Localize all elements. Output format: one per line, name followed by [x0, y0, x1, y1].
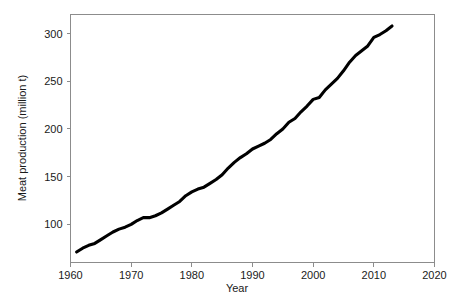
meat-production-line-chart: 1960197019801990200020102020 10015020025…	[0, 0, 456, 302]
y-axis-title: Meat production (million t)	[16, 75, 28, 202]
x-tick-label: 1960	[58, 269, 82, 281]
x-tick-label: 1980	[180, 269, 204, 281]
x-tick-label: 2000	[301, 269, 325, 281]
chart-container: 1960197019801990200020102020 10015020025…	[0, 0, 456, 302]
y-tick-label: 150	[44, 171, 62, 183]
x-tick-label: 2010	[362, 269, 386, 281]
y-tick-label: 250	[44, 75, 62, 87]
y-tick-label: 300	[44, 28, 62, 40]
y-tick-label: 100	[44, 218, 62, 230]
x-axis-title: Year	[226, 282, 249, 294]
chart-background	[0, 0, 456, 302]
y-tick-label: 200	[44, 123, 62, 135]
x-tick-label: 1970	[119, 269, 143, 281]
x-tick-label: 2020	[422, 269, 446, 281]
x-tick-label: 1990	[240, 269, 264, 281]
